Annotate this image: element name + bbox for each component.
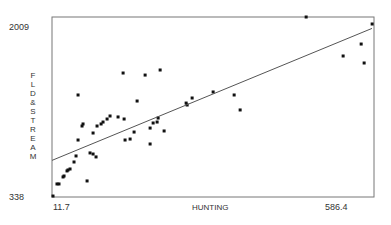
x-tick-label-min: 11.7 [53, 202, 70, 212]
y-axis-label-char: A [30, 143, 36, 152]
y-axis-label-char: E [30, 134, 35, 143]
y-axis-label-char: L [31, 80, 36, 89]
y-axis-label-char: F [31, 71, 36, 80]
data-point [371, 23, 374, 26]
y-axis-label-char: D [30, 89, 36, 98]
y-axis-label-char: S [30, 107, 35, 116]
y-axis-label-char: T [31, 116, 36, 125]
data-point [89, 151, 92, 154]
y-axis-label: FLD&STREAM [30, 71, 37, 161]
data-point [117, 115, 120, 118]
data-point [77, 93, 80, 96]
y-axis-label-char: & [30, 98, 36, 107]
data-point [96, 125, 99, 128]
data-point [75, 154, 78, 157]
data-point [92, 132, 95, 135]
data-point [133, 131, 136, 134]
data-point [69, 167, 72, 170]
data-point [363, 61, 366, 64]
y-tick-label-max: 2009 [9, 22, 29, 32]
data-point [129, 138, 132, 141]
data-point [305, 16, 308, 19]
scatter-chart: 2009 338 11.7 586.4 HUNTING FLD&STREAM [0, 0, 391, 225]
data-point [149, 127, 152, 130]
data-point [52, 195, 55, 198]
data-point [109, 114, 112, 117]
data-point [102, 121, 105, 124]
y-axis-label-char: R [30, 125, 36, 134]
points-layer [52, 16, 374, 198]
data-point [63, 174, 66, 177]
regression-line [52, 28, 372, 160]
plot-frame [52, 17, 374, 197]
data-point [156, 121, 159, 124]
data-point [92, 153, 95, 156]
data-point [144, 74, 147, 77]
data-point [233, 93, 236, 96]
data-point [58, 182, 61, 185]
data-point [123, 118, 126, 121]
data-point [360, 43, 363, 46]
data-point [159, 68, 162, 71]
data-point [106, 118, 109, 121]
data-point [122, 72, 125, 75]
x-tick-label-max: 586.4 [325, 202, 348, 212]
data-point [163, 129, 166, 132]
data-point [73, 160, 76, 163]
data-point [191, 97, 194, 100]
data-point [95, 155, 98, 158]
x-axis-label: HUNTING [192, 203, 228, 212]
y-tick-label-min: 338 [9, 192, 24, 202]
data-point [77, 139, 80, 142]
data-point [239, 108, 242, 111]
data-point [152, 121, 155, 124]
data-point [136, 100, 139, 103]
y-axis-label-char: M [30, 152, 37, 161]
data-point [124, 139, 127, 142]
data-point [149, 143, 152, 146]
data-point [82, 122, 85, 125]
data-point [86, 179, 89, 182]
data-point [342, 54, 345, 57]
